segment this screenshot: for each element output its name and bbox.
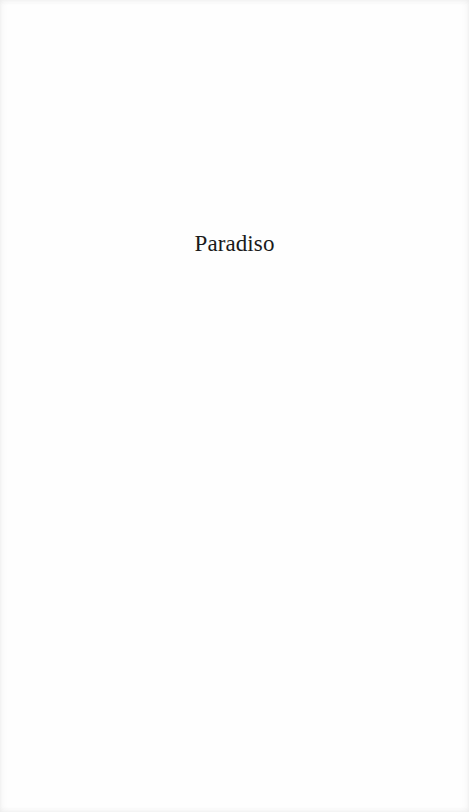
half-title: Paradiso <box>0 229 469 259</box>
book-page: Paradiso <box>0 0 469 812</box>
